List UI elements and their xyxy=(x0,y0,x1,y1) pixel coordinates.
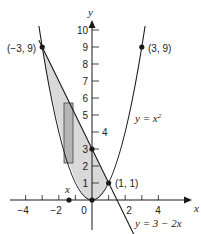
point-neg3-9 xyxy=(40,44,45,49)
y-tick-label: 2 xyxy=(82,161,88,172)
y-axis-label: y xyxy=(87,6,93,18)
point-label-1-1: (1, 1) xyxy=(115,178,138,189)
shaded-region xyxy=(42,47,108,200)
graph-figure: 1 2 3 4 5 6 7 8 9 10 −4 −2 0 2 4 x y (−3… xyxy=(0,0,201,234)
x-tick-label: 4 xyxy=(155,205,161,216)
line-label: y = 3 − 2x xyxy=(134,217,182,229)
point-1-1 xyxy=(106,180,111,185)
point-label-neg3-9: (−3, 9) xyxy=(7,43,36,54)
x-tick-label: −4 xyxy=(17,205,29,216)
point-origin xyxy=(89,197,94,202)
x-tick-label: −2 xyxy=(50,205,62,216)
x-axis-arrow-icon xyxy=(184,197,192,204)
y-tick-label: 4 xyxy=(102,127,108,138)
y-tick-label: 3 xyxy=(82,144,88,155)
approximating-rectangle xyxy=(64,103,73,163)
point-x-marker xyxy=(66,197,71,202)
point-label-3-9: (3, 9) xyxy=(148,43,171,54)
y-tick-label: 6 xyxy=(82,93,88,104)
y-tick-label: 10 xyxy=(77,25,89,36)
y-tick-label: 9 xyxy=(82,42,88,53)
x-tick-label: 2 xyxy=(126,205,132,216)
x-axis-label: x xyxy=(193,202,199,214)
y-axis-arrow-icon xyxy=(89,20,96,28)
y-tick-label: 5 xyxy=(82,110,88,121)
y-tick-label: 7 xyxy=(82,76,88,87)
point-3-9 xyxy=(139,44,144,49)
parabola-label: y = x2 xyxy=(134,112,162,124)
point-0-3 xyxy=(89,146,94,151)
y-tick-label: 8 xyxy=(82,59,88,70)
x-tick-label: 0 xyxy=(81,205,87,216)
x-marker-label: x xyxy=(64,183,70,195)
y-tick-label: 1 xyxy=(82,178,88,189)
